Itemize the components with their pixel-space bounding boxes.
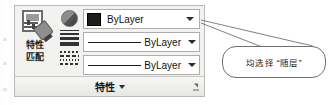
match-properties-button[interactable]: 特性 匹配 (15, 6, 55, 78)
linetype-dropdown[interactable]: ByLayer (83, 55, 200, 75)
color-swatch (87, 13, 101, 26)
panel-footer[interactable]: 特性 (15, 76, 204, 96)
annotation-callout: 均选择 “随层” (222, 46, 326, 78)
linetype-preview (88, 65, 141, 66)
lineweight-value: ByLayer (144, 37, 181, 48)
chevron-down-icon[interactable] (185, 40, 199, 44)
screenshot-root: 特性 匹配 ByLayer (0, 0, 331, 105)
annotation-callout-text: 均选择 “随层” (246, 56, 302, 68)
chevron-down-icon[interactable] (185, 63, 199, 67)
match-properties-icon (20, 9, 51, 39)
chevron-down-icon[interactable] (183, 17, 197, 21)
object-color-dropdown[interactable]: ByLayer (83, 9, 200, 29)
panel-title: 特性 (95, 79, 115, 94)
property-dropdown-column: ByLayer ByLayer ByLayer (83, 6, 204, 78)
object-color-value: ByLayer (107, 14, 183, 25)
lineweight-preview (88, 42, 141, 43)
properties-panel: 特性 匹配 ByLayer (14, 5, 205, 97)
match-properties-label-line2: 匹配 (26, 52, 44, 63)
lineweight-dropdown[interactable]: ByLayer (83, 32, 200, 52)
linetype-icon[interactable] (60, 49, 79, 66)
dialog-launcher-icon[interactable] (193, 83, 200, 90)
linetype-value: ByLayer (144, 60, 181, 71)
property-icon-strip (55, 6, 83, 78)
match-properties-label-line1: 特性 (26, 40, 44, 51)
object-color-icon[interactable] (61, 10, 78, 27)
lineweight-icon[interactable] (60, 30, 79, 46)
chevron-down-icon[interactable] (119, 85, 125, 89)
panel-content: 特性 匹配 ByLayer (15, 6, 204, 78)
scan-edge-artifact (0, 0, 13, 105)
